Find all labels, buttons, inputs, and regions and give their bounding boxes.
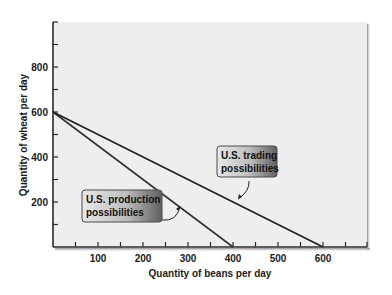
y-tick-label: 800	[31, 62, 48, 73]
y-tick-label: 200	[31, 197, 48, 208]
x-tick-label: 200	[135, 253, 152, 264]
y-tick-label: 400	[31, 152, 48, 163]
x-tick-label: 400	[225, 253, 242, 264]
production-possibilities-chart: 100200300400500600200400600800 Quantity …	[0, 0, 392, 295]
y-axis-title: Quantity of wheat per day	[18, 73, 29, 196]
callout-text-line2: possibilities	[221, 163, 279, 174]
callout-text-line2: possibilities	[86, 207, 144, 218]
x-tick-label: 100	[90, 253, 107, 264]
callout-text-line1: U.S. production	[86, 194, 160, 205]
callout-text-line1: U.S. trading	[221, 150, 277, 161]
x-axis-title: Quantity of beans per day	[149, 268, 272, 279]
x-tick-label: 500	[270, 253, 287, 264]
x-tick-label: 600	[315, 253, 332, 264]
panel-shadow-bottom	[55, 248, 370, 252]
y-tick-label: 600	[31, 107, 48, 118]
x-tick-label: 300	[180, 253, 197, 264]
panel-shadow-right	[367, 24, 371, 250]
